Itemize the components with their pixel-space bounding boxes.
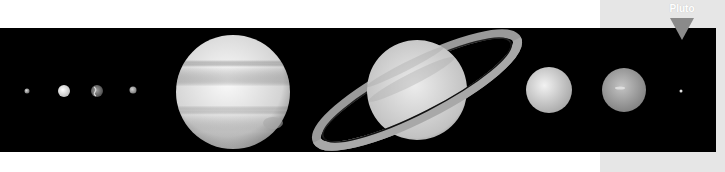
pluto-marker-arrow-icon — [670, 18, 694, 40]
venus — [58, 85, 70, 97]
mercury — [25, 89, 30, 94]
uranus — [526, 67, 572, 113]
pluto — [680, 90, 683, 93]
jupiter — [176, 35, 290, 149]
neptune — [602, 68, 646, 112]
earth — [91, 85, 103, 97]
planets-scene — [0, 28, 716, 152]
pluto-label: Pluto — [662, 3, 702, 14]
saturn — [295, 28, 540, 152]
mars — [130, 87, 137, 94]
